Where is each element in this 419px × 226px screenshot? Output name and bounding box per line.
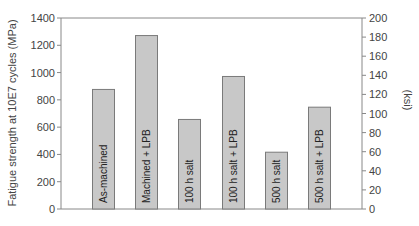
left-tick-label: 200	[37, 176, 55, 188]
bar-category-label: 500 h salt + LPB	[314, 129, 325, 203]
right-tick-label: 120	[369, 88, 387, 100]
left-tick-label: 0	[49, 203, 55, 215]
bar-category-label: As-machined	[98, 145, 109, 203]
left-tick-label: 800	[37, 94, 55, 106]
left-tick-label: 1200	[31, 39, 55, 51]
bar-category-label: Machined + LPB	[141, 129, 152, 203]
left-y-axis: 0200400600800100012001400	[31, 12, 61, 215]
bar-category-label: 100 h salt	[184, 159, 195, 203]
right-tick-label: 40	[369, 165, 381, 177]
right-tick-label: 20	[369, 184, 381, 196]
right-axis-title: (ksi)	[402, 90, 414, 111]
bar-category-label: 100 h salt + LPB	[228, 129, 239, 203]
left-tick-label: 1000	[31, 67, 55, 79]
right-tick-label: 0	[369, 203, 375, 215]
right-tick-label: 60	[369, 146, 381, 158]
bar: 100 h salt	[179, 119, 201, 209]
right-tick-label: 140	[369, 69, 387, 81]
left-axis-title: Fatigue strength at 10E7 cycles (MPa)	[6, 19, 18, 206]
left-tick-label: 600	[37, 121, 55, 133]
right-tick-label: 80	[369, 127, 381, 139]
bars-group: As-machinedMachined + LPB100 h salt100 h…	[93, 36, 331, 209]
bar: 500 h salt + LPB	[309, 107, 331, 209]
bar: 100 h salt + LPB	[223, 76, 245, 209]
bar-category-label: 500 h salt	[271, 159, 282, 203]
bar: 500 h salt	[266, 152, 288, 209]
left-tick-label: 400	[37, 148, 55, 160]
right-tick-label: 100	[369, 108, 387, 120]
right-tick-label: 200	[369, 12, 387, 24]
bar: Machined + LPB	[136, 36, 158, 209]
right-tick-label: 180	[369, 31, 387, 43]
fatigue-strength-bar-chart: 0200400600800100012001400 02040608010012…	[0, 0, 419, 226]
right-tick-label: 160	[369, 50, 387, 62]
right-y-axis: 020406080100120140160180200	[362, 12, 387, 215]
bar: As-machined	[93, 89, 115, 209]
left-tick-label: 1400	[31, 12, 55, 24]
